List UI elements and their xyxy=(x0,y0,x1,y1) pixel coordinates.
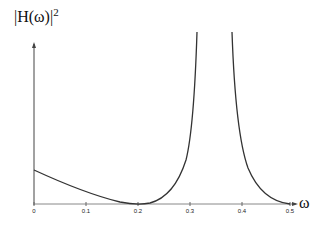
x-tick-label: 0.3 xyxy=(186,208,194,214)
plot-area xyxy=(0,0,324,225)
y-axis-arrow-icon xyxy=(32,42,36,48)
x-tick-label: 0 xyxy=(32,208,35,214)
x-axis-arrow-icon xyxy=(292,202,298,206)
x-tick-label: 0.2 xyxy=(134,208,142,214)
x-tick-label: 0.5 xyxy=(286,208,294,214)
curve-right-branch xyxy=(232,32,290,204)
x-tick-label: 0.4 xyxy=(238,208,246,214)
curve-left-branch xyxy=(34,32,197,204)
x-tick-label: 0.1 xyxy=(82,208,90,214)
